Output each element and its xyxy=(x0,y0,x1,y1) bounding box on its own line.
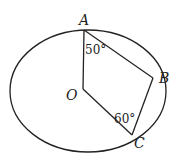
label-C: C xyxy=(134,135,145,151)
angle-OAB: 50° xyxy=(85,43,106,57)
label-A: A xyxy=(77,12,89,28)
segment-OA xyxy=(83,30,84,89)
circle-diagram: A B O C 50° 60° xyxy=(0,0,178,153)
segment-BC xyxy=(132,78,153,135)
diagram-canvas: A B O C 50° 60° xyxy=(0,0,178,153)
label-O: O xyxy=(66,87,78,103)
angle-OCB: 60° xyxy=(114,112,135,126)
label-B: B xyxy=(158,70,169,86)
